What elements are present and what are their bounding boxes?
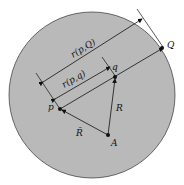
label-p: p bbox=[48, 102, 54, 112]
point-q bbox=[113, 75, 117, 79]
label-Q: Q bbox=[167, 40, 175, 50]
point-p bbox=[58, 107, 62, 111]
geometry-diagram: r(p,Q) r(p,q) p q Q A R R̄ bbox=[0, 0, 184, 185]
label-R-bar: R̄ bbox=[75, 127, 83, 138]
point-A bbox=[106, 133, 110, 137]
label-q: q bbox=[112, 62, 118, 72]
label-R: R bbox=[115, 103, 123, 113]
label-A: A bbox=[110, 138, 118, 148]
point-Q bbox=[160, 46, 164, 50]
